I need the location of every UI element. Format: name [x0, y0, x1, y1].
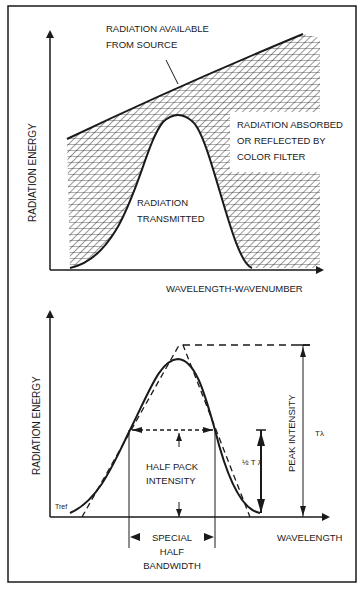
half-peak-label-line2: INTENSITY [146, 475, 196, 486]
spectral-diagram: RADIATION ENERGY WAVELENGTH-WAVENUMBER R… [0, 0, 363, 589]
t-ref-label: Tref [55, 503, 67, 510]
bottom-x-axis-label: WAVELENGTH [277, 532, 343, 543]
half-peak-left-arrow [132, 427, 142, 433]
transmitted-label-line1: RADIATION [137, 197, 188, 208]
bandwidth-left-arrow [130, 533, 140, 541]
top-chart: RADIATION ENERGY WAVELENGTH-WAVENUMBER R… [27, 23, 343, 294]
absorbed-label-line1: RADIATION ABSORBED [237, 119, 343, 130]
t-lambda-label: Tλ [315, 429, 324, 438]
source-label-line1: RADIATION AVAILABLE [106, 23, 209, 34]
source-label-line2: FROM SOURCE [106, 39, 177, 50]
absorbed-label-line3: COLOR FILTER [237, 151, 306, 162]
top-x-axis-label: WAVELENGTH-WAVENUMBER [166, 283, 303, 294]
center-half-up-arrow [176, 433, 182, 441]
bottom-y-axis-label: RADIATION ENERGY [31, 376, 42, 475]
peak-up-arrow [300, 347, 306, 357]
peak-intensity-label: PEAK INTENSITY [286, 394, 297, 472]
source-leader-line [166, 60, 178, 84]
bandwidth-label-line2: HALF [160, 546, 184, 557]
bandwidth-right-arrow [204, 533, 214, 541]
absorbed-label-line2: OR REFLECTED BY [237, 135, 326, 146]
center-half-down-arrow [176, 509, 182, 517]
half-peak-right-arrow [203, 427, 213, 433]
half-t-down-arrow [257, 499, 265, 513]
bottom-chart: RADIATION ENERGY WAVELENGTH Tref HALF PA… [31, 312, 343, 571]
bandwidth-label-line3: BANDWIDTH [143, 560, 201, 571]
half-t-lambda-label: ½ T λ [242, 458, 262, 467]
half-t-up-arrow [257, 432, 265, 446]
transmitted-label-line2: TRANSMITTED [137, 213, 205, 224]
measured-curve [70, 359, 260, 513]
half-peak-label-line1: HALF PACK [146, 461, 199, 472]
idealized-curve [82, 345, 250, 517]
peak-down-arrow [300, 506, 306, 516]
bandwidth-label-line1: SPECIAL [152, 532, 192, 543]
top-y-axis-label: RADIATION ENERGY [27, 123, 38, 222]
